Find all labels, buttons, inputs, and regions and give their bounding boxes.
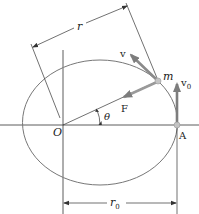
r-label: r [77, 20, 83, 33]
theta-arc [97, 110, 100, 125]
r0-label: r0 [110, 196, 120, 211]
mass-label: m [163, 70, 173, 83]
orbit-diagram: r r0 θ O v F m v0 A [0, 0, 199, 214]
force-label: F [121, 103, 128, 114]
theta-label: θ [104, 111, 110, 122]
r-extension-origin [31, 44, 60, 118]
initial-velocity-label: v0 [180, 77, 191, 91]
origin-label: O [53, 126, 62, 139]
point-A-label: A [178, 130, 187, 141]
mass-point [155, 78, 161, 84]
r-dimension-line-left [33, 28, 74, 47]
velocity-vector [131, 55, 158, 81]
r-dimension-line-right [86, 6, 127, 23]
velocity-label: v [119, 48, 126, 59]
point-A [174, 122, 180, 128]
force-vector [124, 82, 157, 97]
